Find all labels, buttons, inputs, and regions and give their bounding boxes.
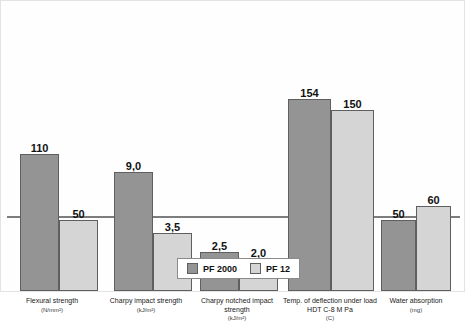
category-label-text: Charpy notched impact strength	[201, 297, 273, 313]
category-label-text: Temp. of deflection under load HDT C-8 M…	[283, 297, 377, 313]
bar-pf2000[interactable]: 50	[381, 220, 416, 291]
category-label-charpy-notched-impact-strength: Charpy notched impact strength (kJ/m²)	[193, 297, 281, 323]
category-unit-text: (kJ/m²)	[92, 306, 200, 315]
bar-group-bars: 50 60	[381, 75, 451, 291]
category-unit-text: (N/mm²)	[4, 306, 100, 315]
bar-value-label: 2,5	[212, 240, 227, 252]
category-label-temp-of-deflection: Temp. of deflection under load HDT C-8 M…	[275, 297, 385, 323]
bar-pf2000[interactable]: 110	[20, 154, 59, 291]
legend-label: PF 12	[266, 264, 290, 274]
bar-value-label: 60	[427, 194, 439, 206]
category-unit-text: (kJ/m²)	[193, 314, 281, 323]
legend-item-pf2000[interactable]: PF 2000	[187, 263, 237, 274]
bar-value-label: 110	[31, 142, 49, 154]
category-unit-text: (C)	[275, 314, 385, 323]
bar-value-label: 9,0	[126, 160, 141, 172]
legend-label: PF 2000	[203, 264, 237, 274]
bar-value-label: 154	[300, 87, 318, 99]
category-label-charpy-impact-strength: Charpy impact strength (kJ/m²)	[92, 297, 200, 314]
category-label-text: Charpy impact strength	[110, 297, 182, 304]
bar-group-bars: 154 150	[288, 75, 374, 291]
bar-value-label: 50	[392, 208, 404, 220]
category-label-text: Flexural strength	[26, 297, 78, 304]
bar-value-label: 150	[343, 98, 361, 110]
bar-pf12[interactable]: 60	[416, 206, 451, 291]
bar-group-flexural-strength: 110 50 Flexural strength (N/mm²)	[6, 75, 98, 291]
bar-pf12[interactable]: 150	[331, 110, 374, 291]
legend-swatch-icon	[187, 263, 198, 274]
bar-value-label: 50	[72, 208, 84, 220]
bar-group-water-absorption: 50 60 Water absorption (mg)	[374, 75, 458, 291]
legend-swatch-icon	[250, 263, 261, 274]
bar-value-label: 3,5	[165, 221, 180, 233]
category-label-flexural-strength: Flexural strength (N/mm²)	[4, 297, 100, 314]
bar-group-bars: 110 50	[20, 75, 98, 291]
category-unit-text: (mg)	[371, 306, 461, 315]
chart-legend: PF 2000 PF 12	[177, 258, 300, 279]
category-label-water-absorption: Water absorption (mg)	[371, 297, 461, 314]
bar-pf2000[interactable]: 9,0	[114, 172, 153, 291]
category-label-text: Water absorption	[389, 297, 442, 304]
legend-item-pf12[interactable]: PF 12	[250, 263, 290, 274]
